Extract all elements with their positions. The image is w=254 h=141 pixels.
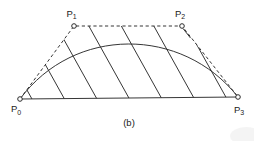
figure-caption: (b) — [123, 117, 135, 128]
figure-linework — [0, 20, 240, 103]
bezier-curve — [20, 44, 238, 99]
point-label-p2-subscript: 2 — [181, 13, 185, 20]
control-point-marker-p0 — [18, 97, 23, 102]
point-label-p1: P1 — [67, 8, 77, 21]
hatch-lines — [0, 20, 229, 103]
point-label-p3: P3 — [234, 104, 244, 117]
control-point-marker-p1 — [72, 24, 77, 29]
control-point-marker-p2 — [180, 24, 185, 29]
point-label-p0-subscript: 0 — [17, 109, 21, 116]
scan-artifact — [230, 127, 254, 141]
edge-stroke-below-p2 — [183, 29, 191, 39]
point-label-p1-subscript: 1 — [73, 13, 77, 20]
control-polygon-dashed — [20, 26, 238, 99]
bezier-curve-figure: P0 P1 P2 P3 (b) — [0, 0, 254, 141]
point-label-p3-subscript: 3 — [240, 109, 244, 116]
point-label-p0: P0 — [11, 103, 21, 116]
control-point-marker-p3 — [236, 95, 241, 100]
point-label-p2: P2 — [175, 8, 185, 21]
